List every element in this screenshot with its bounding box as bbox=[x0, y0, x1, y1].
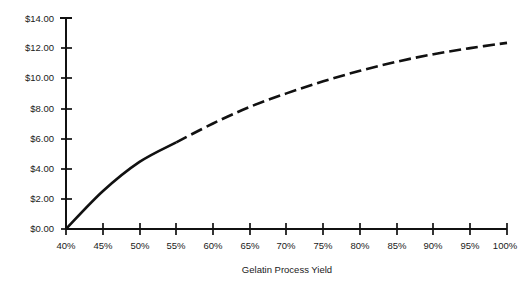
y-tick-label-4: $4.00 bbox=[30, 163, 54, 174]
x-tick-label-95: 95% bbox=[460, 240, 480, 251]
x-tick-label-45: 45% bbox=[93, 240, 113, 251]
x-tick-label-55: 55% bbox=[166, 240, 186, 251]
x-tick-label-50: 50% bbox=[130, 240, 150, 251]
chart-plot-area: $0.00 $2.00 $4.00 $6.00 $8.00 $10.00 $12… bbox=[0, 0, 527, 288]
x-tick-label-65: 65% bbox=[240, 240, 260, 251]
x-tick-label-100: 100% bbox=[493, 240, 518, 251]
y-tick-label-8: $8.00 bbox=[30, 103, 54, 114]
x-tick-label-75: 75% bbox=[313, 240, 333, 251]
y-tick-label-6: $6.00 bbox=[30, 133, 54, 144]
x-tick-label-80: 80% bbox=[350, 240, 370, 251]
x-tick-label-60: 60% bbox=[203, 240, 223, 251]
x-tick-label-40: 40% bbox=[56, 240, 76, 251]
chart-container: $0.00 $2.00 $4.00 $6.00 $8.00 $10.00 $12… bbox=[0, 0, 527, 288]
data-series-line-dashed bbox=[176, 43, 507, 142]
x-axis-title: Gelatin Process Yield bbox=[242, 264, 332, 275]
y-tick-label-14: $14.00 bbox=[25, 13, 54, 24]
y-tick-label-12: $12.00 bbox=[25, 42, 54, 53]
y-tick-label-10: $10.00 bbox=[25, 72, 54, 83]
y-tick-label-0: $0.00 bbox=[30, 223, 54, 234]
x-tick-label-90: 90% bbox=[423, 240, 443, 251]
x-tick-label-85: 85% bbox=[387, 240, 407, 251]
data-series-line-solid bbox=[66, 142, 176, 229]
x-tick-label-70: 70% bbox=[276, 240, 296, 251]
y-tick-label-2: $2.00 bbox=[30, 193, 54, 204]
